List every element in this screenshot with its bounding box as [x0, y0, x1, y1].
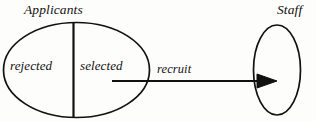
- staff-ellipse[interactable]: [254, 25, 301, 115]
- er-diagram: Applicants Staff rejected selected recru…: [0, 0, 316, 121]
- applicants-partition-selected-label: selected: [80, 59, 123, 72]
- recruit-arrowhead-icon: [257, 74, 277, 88]
- applicants-title-label: Applicants: [24, 3, 83, 17]
- applicants-partition-rejected-label: rejected: [10, 59, 52, 72]
- staff-title-label: Staff: [277, 3, 302, 17]
- recruit-relationship-label: recruit: [157, 63, 191, 76]
